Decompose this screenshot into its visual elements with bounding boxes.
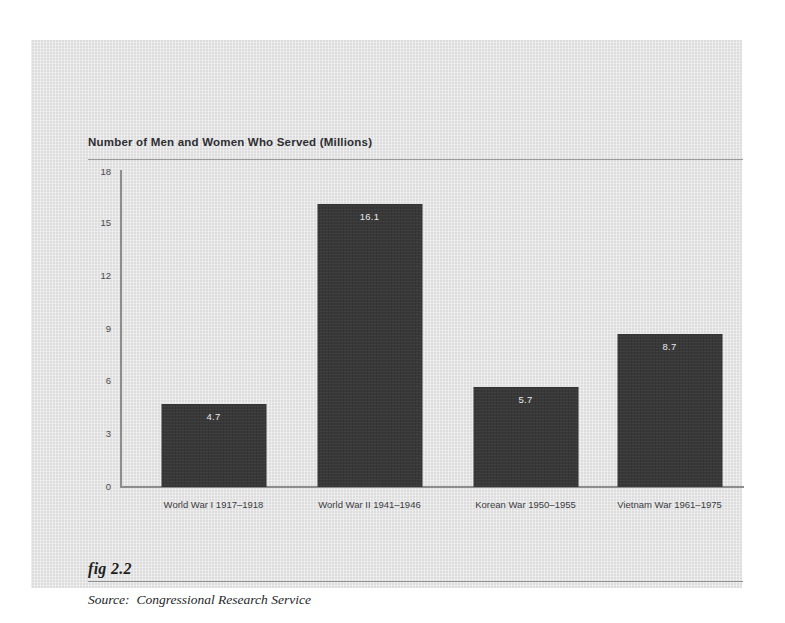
footer-divider: [88, 581, 743, 582]
bar-slot-korea: 5.7 Korean War 1950–1955: [448, 170, 603, 487]
y-tick-0: 0: [106, 481, 111, 492]
bar-value-korea: 5.7: [473, 394, 578, 405]
y-tick-18: 18: [100, 166, 111, 177]
chart-title: Number of Men and Women Who Served (Mill…: [88, 136, 372, 148]
y-tick-6: 6: [106, 375, 111, 386]
y-tick-15: 15: [100, 217, 111, 228]
bar-slot-ww1: 4.7 World War I 1917–1918: [136, 170, 291, 487]
y-tick-9: 9: [106, 323, 111, 334]
bar-korea[interactable]: 5.7: [473, 387, 578, 487]
source-label: Source:: [88, 592, 129, 607]
bar-slot-vietnam: 8.7 Vietnam War 1961–1975: [592, 170, 747, 487]
y-tick-3: 3: [106, 428, 111, 439]
bar-value-vietnam: 8.7: [617, 341, 722, 352]
category-label-ww1: World War I 1917–1918: [164, 499, 264, 510]
bar-ww1[interactable]: 4.7: [161, 404, 266, 487]
bar-value-ww2: 16.1: [317, 211, 422, 222]
scanned-page: Number of Men and Women Who Served (Mill…: [0, 0, 785, 623]
title-divider: [88, 159, 743, 160]
source-text: Congressional Research Service: [136, 592, 310, 607]
source-line: Source:Congressional Research Service: [88, 592, 311, 608]
figure-number: fig 2.2: [88, 560, 132, 578]
bar-ww2[interactable]: 16.1: [317, 204, 422, 487]
bar-value-ww1: 4.7: [161, 411, 266, 422]
plot-area: 0 3 6 9 12 15 18 4.7 World War I 1917–19…: [120, 170, 744, 488]
category-label-vietnam: Vietnam War 1961–1975: [617, 499, 722, 510]
bar-vietnam[interactable]: 8.7: [617, 334, 722, 487]
bar-group: 4.7 World War I 1917–1918 16.1 World War…: [122, 170, 744, 487]
category-label-ww2: World War II 1941–1946: [318, 499, 420, 510]
figure-panel: Number of Men and Women Who Served (Mill…: [31, 40, 742, 588]
category-label-korea: Korean War 1950–1955: [475, 499, 576, 510]
bar-slot-ww2: 16.1 World War II 1941–1946: [292, 170, 447, 487]
y-tick-12: 12: [100, 270, 111, 281]
